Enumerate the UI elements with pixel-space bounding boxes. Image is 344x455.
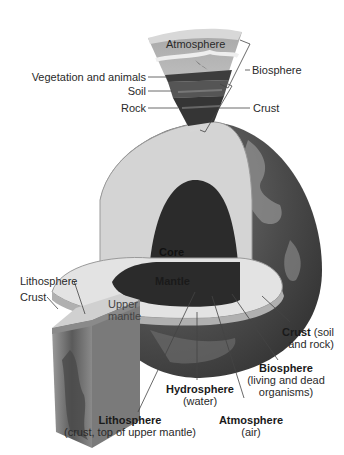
label-biosphere-wedge: Biosphere bbox=[252, 64, 302, 76]
label-lithosphere-crust: Lithosphere (crust, top of upper mantle) bbox=[40, 414, 220, 438]
label-biosphere-organisms: Biosphere (living and dead organisms) bbox=[246, 362, 326, 398]
label-core: Core bbox=[159, 246, 184, 258]
label-atmosphere-air: Atmosphere (air) bbox=[216, 414, 286, 438]
label-lithosphere-block: Lithosphere bbox=[20, 275, 78, 287]
label-crust-soil-rock: Crust (soil and rock) bbox=[282, 326, 334, 350]
label-hydrosphere: Hydrosphere (water) bbox=[160, 383, 240, 407]
label-atmosphere-wedge: Atmosphere bbox=[166, 38, 225, 50]
label-upper-mantle-1: Upper bbox=[108, 298, 138, 310]
label-soil: Soil bbox=[128, 85, 146, 97]
earth-spheres-diagram: Atmosphere Vegetation and animals Soil R… bbox=[0, 0, 344, 455]
label-rock: Rock bbox=[121, 102, 146, 114]
label-upper-mantle-2: mantle bbox=[108, 310, 141, 322]
label-vegetation-animals: Vegetation and animals bbox=[32, 71, 146, 83]
label-mantle: Mantle bbox=[155, 275, 190, 287]
label-crust-block: Crust bbox=[20, 291, 46, 303]
label-crust-wedge: Crust bbox=[253, 102, 279, 114]
